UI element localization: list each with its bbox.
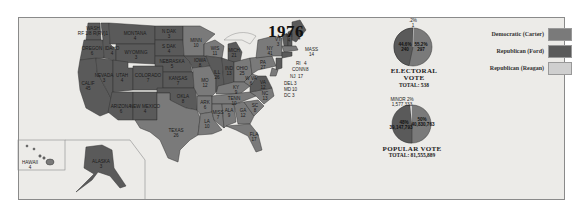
map-title: 1976	[268, 22, 304, 42]
svg-text:8: 8	[182, 99, 185, 104]
svg-text:17: 17	[298, 74, 304, 79]
svg-text:3: 3	[294, 81, 297, 86]
svg-text:DEL: DEL	[284, 81, 293, 86]
svg-text:7: 7	[177, 81, 180, 86]
svg-text:297: 297	[417, 47, 425, 52]
svg-text:10: 10	[204, 124, 210, 129]
legend-swatch-republican-ford	[548, 45, 572, 58]
svg-text:26: 26	[173, 133, 179, 138]
svg-text:8: 8	[306, 67, 309, 72]
svg-text:3: 3	[168, 34, 171, 39]
legend-item-democratic-carter: Democratic (Carter)	[462, 26, 572, 42]
svg-text:3: 3	[292, 93, 295, 98]
legend-item-republican-reagan: Republican (Reagan)	[462, 60, 572, 76]
electoral-vote-total: TOTAL: 538	[383, 83, 445, 89]
svg-text:3: 3	[277, 42, 280, 47]
legend-swatch-republican-reagan	[548, 62, 572, 75]
electoral-vote-label: ELECTORAL VOTE	[383, 68, 445, 83]
svg-text:6: 6	[250, 81, 253, 86]
svg-text:RF 1/8 R(RV)1: RF 1/8 R(RV)1	[78, 31, 109, 36]
svg-text:6: 6	[91, 51, 94, 56]
svg-text:40,830,763: 40,830,763	[412, 122, 435, 127]
svg-text:DC: DC	[284, 93, 291, 98]
svg-text:12: 12	[260, 85, 266, 90]
svg-text:10: 10	[193, 43, 199, 48]
state-fla	[226, 124, 262, 152]
svg-text:240: 240	[401, 47, 409, 52]
svg-text:12: 12	[202, 83, 208, 88]
svg-text:4: 4	[304, 61, 307, 66]
svg-text:8: 8	[254, 108, 257, 113]
legend: Democratic (Carter) Republican (Ford) Re…	[462, 26, 572, 77]
svg-text:12: 12	[240, 113, 246, 118]
svg-text:4: 4	[121, 78, 124, 83]
state-conn	[282, 52, 292, 58]
popular-vote-pie: 48% 39,147,793 50% 40,830,763 MINOR 2% 1…	[390, 97, 435, 143]
svg-text:3: 3	[135, 55, 138, 60]
svg-text:10: 10	[292, 87, 298, 92]
svg-text:4: 4	[29, 165, 32, 170]
svg-text:1: 1	[412, 23, 415, 28]
legend-item-republican-ford: Republican (Ford)	[462, 43, 572, 59]
svg-text:4: 4	[134, 36, 137, 41]
svg-text:25: 25	[239, 71, 245, 76]
svg-text:CONN: CONN	[292, 67, 306, 72]
svg-text:RI: RI	[296, 61, 301, 66]
svg-text:1,577,333: 1,577,333	[392, 102, 413, 107]
svg-text:26: 26	[214, 75, 220, 80]
state-mass	[282, 46, 298, 52]
hawaii-inset	[18, 140, 65, 170]
svg-text:45: 45	[85, 86, 91, 91]
popular-vote-caption: POPULAR VOTE TOTAL: 81,555,889	[376, 146, 448, 159]
svg-text:17: 17	[251, 137, 257, 142]
svg-text:39,147,793: 39,147,793	[390, 125, 413, 130]
svg-text:5: 5	[171, 64, 174, 69]
svg-text:13: 13	[262, 96, 268, 101]
svg-text:3: 3	[100, 164, 103, 169]
svg-text:3: 3	[103, 78, 106, 83]
svg-text:8: 8	[199, 63, 202, 68]
electoral-vote-caption: ELECTORAL VOTE TOTAL: 538	[383, 68, 445, 88]
svg-text:6: 6	[204, 105, 207, 110]
svg-text:4: 4	[111, 51, 114, 56]
state-nj	[276, 58, 282, 70]
svg-text:NJ: NJ	[290, 74, 296, 79]
svg-text:11: 11	[213, 51, 218, 56]
svg-text:7: 7	[217, 115, 220, 120]
svg-text:41: 41	[267, 51, 273, 56]
svg-text:21: 21	[231, 53, 237, 58]
state-hawaii	[46, 159, 54, 165]
svg-text:7: 7	[147, 78, 150, 83]
svg-text:MD: MD	[284, 87, 292, 92]
svg-text:10: 10	[231, 101, 237, 106]
svg-text:6: 6	[120, 109, 123, 114]
svg-text:27: 27	[260, 65, 266, 70]
legend-swatch-democratic	[548, 28, 572, 41]
svg-text:4: 4	[168, 49, 171, 54]
svg-text:9: 9	[228, 113, 231, 118]
great-lakes	[224, 33, 256, 44]
svg-text:13: 13	[226, 71, 232, 76]
popular-vote-total: TOTAL: 81,555,889	[376, 153, 448, 159]
svg-text:4: 4	[144, 109, 147, 114]
svg-text:14: 14	[309, 52, 315, 57]
svg-text:9: 9	[235, 90, 238, 95]
electoral-vote-pie: 44.6% 240 55.2% 297 .2% 1	[394, 18, 432, 66]
